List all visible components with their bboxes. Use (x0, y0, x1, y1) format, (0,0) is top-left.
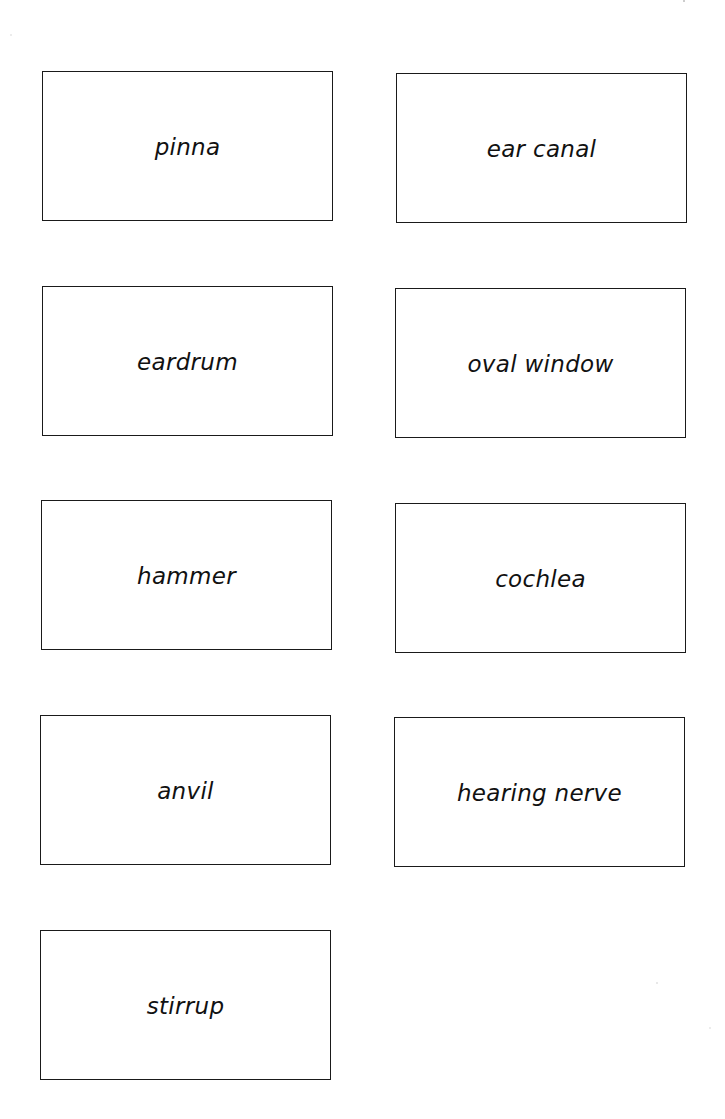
card-label: eardrum (137, 351, 238, 374)
card-hearing-nerve: hearing nerve (394, 717, 685, 867)
card-hammer: hammer (41, 500, 332, 650)
card-label: oval window (467, 353, 613, 376)
scan-artifact (656, 982, 658, 984)
card-ear-canal: ear canal (396, 73, 687, 223)
scan-artifact (709, 1027, 711, 1029)
card-cochlea: cochlea (395, 503, 686, 653)
card-label: anvil (157, 780, 214, 803)
worksheet-page: pinna ear canal eardrum oval window hamm… (0, 0, 725, 1119)
card-label: hearing nerve (457, 782, 622, 805)
card-label: pinna (155, 136, 221, 159)
scan-artifact (683, 0, 685, 2)
scan-artifact (10, 34, 12, 36)
card-label: hammer (137, 565, 236, 588)
card-anvil: anvil (40, 715, 331, 865)
card-stirrup: stirrup (40, 930, 331, 1080)
card-label: cochlea (495, 568, 586, 591)
card-pinna: pinna (42, 71, 333, 221)
card-oval-window: oval window (395, 288, 686, 438)
card-eardrum: eardrum (42, 286, 333, 436)
card-label: stirrup (147, 995, 225, 1018)
card-label: ear canal (487, 138, 597, 161)
